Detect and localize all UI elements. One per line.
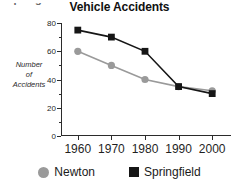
legend-item-newton[interactable]: Newton: [38, 165, 95, 179]
data-point-springfield-1960: [74, 27, 81, 34]
y-tick-label-0: 0: [52, 132, 56, 141]
x-tick-label-1970: 1970: [98, 142, 125, 156]
y-tick-label-80: 80: [47, 19, 56, 28]
data-point-newton-1960: [74, 48, 81, 55]
data-series-layer: [61, 23, 229, 136]
x-tick-label-1960: 1960: [64, 142, 91, 156]
plot-area: 020406080 19601970198019902000: [61, 23, 229, 136]
legend-label-springfield: Springfield: [144, 165, 201, 179]
legend-label-newton: Newton: [54, 165, 95, 179]
chart-legend: Newton Springfield: [0, 165, 239, 179]
chart-figure: Springfield Vehicle Accidents Number of …: [0, 0, 239, 181]
x-tick-2000: [212, 136, 213, 140]
series-line-springfield: [78, 30, 212, 94]
y-tick-label-20: 20: [47, 103, 56, 112]
data-point-springfield-1990: [175, 83, 182, 90]
data-point-springfield-1970: [108, 34, 115, 41]
series-line-newton: [78, 51, 212, 91]
x-tick-label-2000: 2000: [199, 142, 226, 156]
y-tick-label-40: 40: [47, 75, 56, 84]
data-point-newton-1970: [108, 62, 115, 69]
y-axis-title-line-1: Number: [2, 60, 56, 70]
y-tick-0: [57, 136, 61, 137]
data-point-newton-1980: [141, 76, 148, 83]
data-point-springfield-2000: [209, 90, 216, 97]
chart-title: Vehicle Accidents: [0, 0, 239, 14]
circle-marker-icon: [38, 167, 49, 178]
x-tick-1990: [179, 136, 180, 140]
y-tick-label-60: 60: [47, 47, 56, 56]
x-tick-label-1990: 1990: [165, 142, 192, 156]
x-tick-label-1980: 1980: [132, 142, 159, 156]
x-tick-1960: [78, 136, 79, 140]
square-marker-icon: [129, 167, 139, 177]
legend-item-springfield[interactable]: Springfield: [129, 165, 201, 179]
x-tick-1980: [145, 136, 146, 140]
data-point-springfield-1980: [142, 48, 149, 55]
x-tick-1970: [111, 136, 112, 140]
